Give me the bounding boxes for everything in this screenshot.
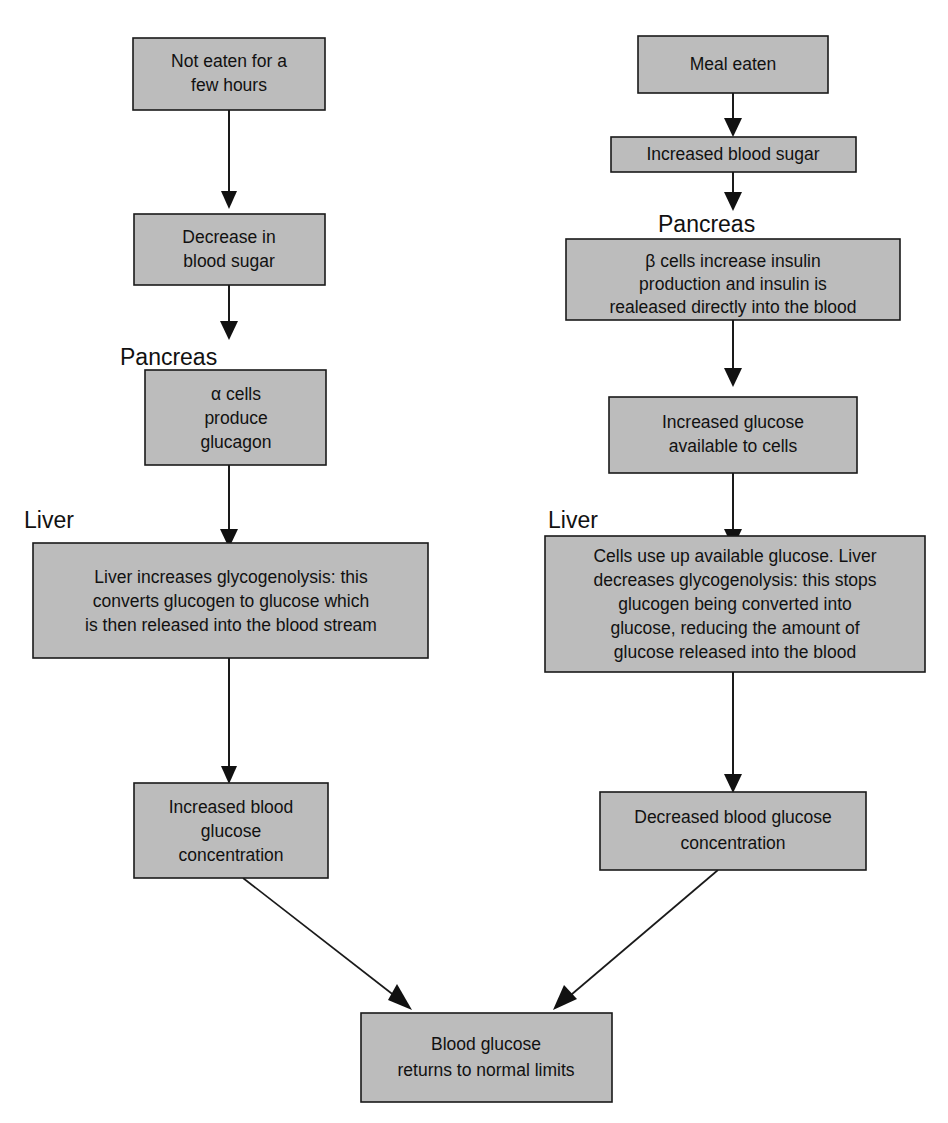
node-liver-glycogenolysis-decrease[interactable]: Cells use up available glucose. Liver de…: [545, 536, 925, 672]
node-increased-blood-glucose-line-2: concentration: [178, 845, 283, 865]
node-liver-inc-line-1: converts glucogen to glucose which: [93, 591, 369, 611]
group-label-left-pancreas: Pancreas: [120, 344, 217, 370]
node-liver-dec-line-3: glucose, reducing the amount of: [610, 618, 859, 638]
node-decrease-blood-sugar-line-1: blood sugar: [183, 251, 275, 271]
node-not-eaten-line-1: few hours: [191, 75, 267, 95]
flowchart-canvas: Not eaten for a few hours Decrease in bl…: [0, 0, 948, 1123]
node-blood-glucose-normal[interactable]: Blood glucose returns to normal limits: [361, 1013, 612, 1102]
node-not-eaten-line-0: Not eaten for a: [171, 51, 287, 71]
node-increased-blood-glucose-line-1: glucose: [201, 821, 261, 841]
connector-left-diagonal: [243, 878, 400, 1000]
node-decrease-blood-sugar-rect[interactable]: [134, 214, 325, 285]
arrow-head-right-2: [724, 192, 742, 211]
node-beta-cells-line-0: β cells increase insulin: [645, 251, 820, 271]
node-liver-dec-line-1: decreases glycogenolysis: this stops: [593, 570, 876, 590]
node-decreased-blood-glucose-rect[interactable]: [600, 792, 866, 870]
node-liver-glycogenolysis-increase[interactable]: Liver increases glycogenolysis: this con…: [33, 543, 428, 658]
arrow-head-right-diagonal: [553, 985, 577, 1010]
node-blood-glucose-normal-rect[interactable]: [361, 1013, 612, 1102]
node-decreased-blood-glucose-line-1: concentration: [680, 833, 785, 853]
node-meal-eaten[interactable]: Meal eaten: [638, 36, 828, 93]
group-label-right-liver: Liver: [548, 507, 598, 533]
node-decrease-blood-sugar-line-0: Decrease in: [182, 227, 275, 247]
node-alpha-cells[interactable]: α cells produce glucagon: [145, 370, 326, 465]
node-liver-dec-line-2: glucogen being converted into: [618, 594, 852, 614]
node-beta-cells[interactable]: β cells increase insulin production and …: [566, 239, 900, 320]
node-alpha-cells-line-2: glucagon: [200, 432, 271, 452]
node-liver-inc-line-0: Liver increases glycogenolysis: this: [94, 567, 368, 587]
arrow-head-left-1: [221, 191, 237, 209]
arrow-head-right-5: [724, 774, 742, 793]
node-liver-dec-line-4: glucose released into the blood: [614, 642, 856, 662]
connector-right-diagonal: [565, 870, 718, 1000]
node-increased-blood-sugar-line-0: Increased blood sugar: [646, 144, 819, 164]
node-liver-dec-line-0: Cells use up available glucose. Liver: [593, 546, 876, 566]
node-blood-glucose-normal-line-1: returns to normal limits: [398, 1060, 575, 1080]
arrow-head-right-3: [724, 368, 742, 387]
node-decrease-blood-sugar[interactable]: Decrease in blood sugar: [134, 214, 325, 285]
node-beta-cells-line-2: realeased directly into the blood: [609, 297, 856, 317]
node-increased-glucose-available-line-0: Increased glucose: [662, 412, 804, 432]
flowchart-diagram: Not eaten for a few hours Decrease in bl…: [0, 0, 948, 1123]
node-decreased-blood-glucose[interactable]: Decreased blood glucose concentration: [600, 792, 866, 870]
group-label-left-liver: Liver: [24, 507, 74, 533]
arrow-head-left-4: [221, 766, 237, 784]
node-alpha-cells-line-1: produce: [204, 408, 267, 428]
arrow-head-left-2: [220, 321, 238, 340]
node-decreased-blood-glucose-line-0: Decreased blood glucose: [634, 807, 832, 827]
node-increased-blood-glucose[interactable]: Increased blood glucose concentration: [134, 783, 328, 878]
arrow-head-right-1: [724, 118, 742, 137]
node-increased-glucose-available[interactable]: Increased glucose available to cells: [609, 397, 857, 473]
node-alpha-cells-line-0: α cells: [211, 384, 261, 404]
node-not-eaten[interactable]: Not eaten for a few hours: [133, 38, 325, 110]
node-blood-glucose-normal-line-0: Blood glucose: [431, 1034, 541, 1054]
node-increased-blood-glucose-line-0: Increased blood: [169, 797, 294, 817]
node-increased-blood-sugar[interactable]: Increased blood sugar: [611, 137, 856, 172]
node-beta-cells-line-1: production and insulin is: [639, 274, 827, 294]
node-liver-inc-line-2: is then released into the blood stream: [85, 615, 377, 635]
arrow-head-left-diagonal: [388, 984, 412, 1010]
node-increased-glucose-available-line-1: available to cells: [669, 436, 798, 456]
node-meal-eaten-line-0: Meal eaten: [690, 54, 777, 74]
group-label-right-pancreas: Pancreas: [658, 211, 755, 237]
